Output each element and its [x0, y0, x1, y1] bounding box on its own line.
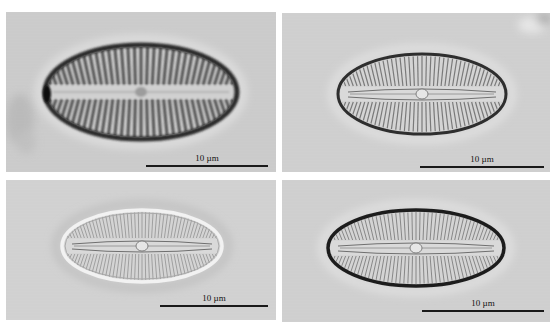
scale-bar [420, 166, 544, 168]
scale-bar [160, 305, 268, 307]
panel-bottom-right: 10 µm [282, 180, 550, 322]
diatom-cell-top-right [282, 13, 550, 172]
diatom-cell-top-left [6, 12, 276, 172]
panel-top-left: 10 µm [6, 12, 276, 172]
scale-bar-label: 10 µm [160, 293, 268, 303]
panel-bottom-left: 10 µm [6, 180, 276, 320]
scale-bar-label: 10 µm [146, 153, 268, 163]
panel-top-right: 10 µm [282, 13, 550, 172]
scale-bar-label: 10 µm [422, 298, 544, 308]
scale-bar [422, 310, 544, 312]
scale-bar [146, 165, 268, 167]
scale-bar-label: 10 µm [420, 154, 544, 164]
